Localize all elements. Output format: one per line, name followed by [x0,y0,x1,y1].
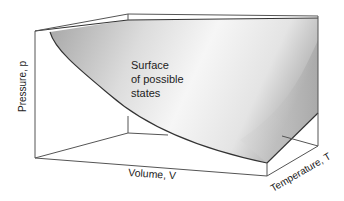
pvt-surface-diagram: Surface of possible states Pressure, p V… [0,0,344,201]
temperature-axis-label: Temperature, T [269,150,333,193]
pressure-axis-label: Pressure, p [17,60,28,112]
volume-axis-label: Volume, V [128,166,177,181]
state-surface [35,18,318,163]
